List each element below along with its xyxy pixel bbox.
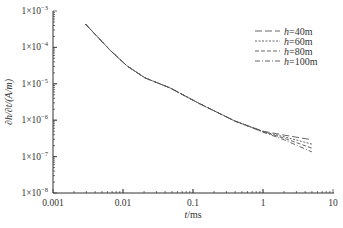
series-lines xyxy=(85,24,312,152)
y-tick-label: 1×10−7 xyxy=(21,150,48,162)
y-minor-ticks xyxy=(53,11,57,193)
x-tick-labels: 0.0010.010.1110 xyxy=(42,198,338,208)
x-axis-title: t/ms xyxy=(184,209,201,220)
y-tick-label: 1×10−6 xyxy=(21,113,48,125)
y-tick-labels: 1×10−31×10−41×10−51×10−61×10−71×10−8 xyxy=(21,4,48,198)
x-tick-label: 0.01 xyxy=(115,198,132,208)
x-tick-label: 0.1 xyxy=(187,198,199,208)
series-line-h-100m xyxy=(85,24,312,152)
series-line-h-80m xyxy=(85,24,312,148)
legend: h=40mh=60mh=80mh=100m xyxy=(255,26,318,67)
series-line-h-60m xyxy=(85,24,312,144)
y-axis-title: ∂h/∂t/(A/m) xyxy=(3,78,15,125)
y-tick-label: 1×10−8 xyxy=(21,186,48,198)
y-tick-label: 1×10−3 xyxy=(21,4,48,16)
x-tick-label: 1 xyxy=(261,198,266,208)
legend-label: h=100m xyxy=(284,56,318,67)
y-tick-label: 1×10−4 xyxy=(21,40,48,52)
y-tick-label: 1×10−5 xyxy=(21,77,48,89)
chart: 0.0010.010.1110 1×10−31×10−41×10−51×10−6… xyxy=(0,0,343,228)
x-tick-label: 0.001 xyxy=(42,198,64,208)
x-tick-label: 10 xyxy=(328,198,338,208)
x-minor-ticks xyxy=(53,189,333,193)
